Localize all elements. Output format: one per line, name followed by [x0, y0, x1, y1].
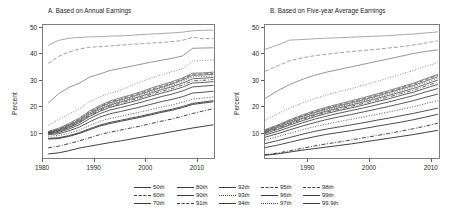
legend-item[interactable]: 94th — [219, 199, 265, 207]
legend-label: 97th — [280, 199, 291, 207]
panel-a: A. Based on Annual Earnings Percent 1020… — [0, 0, 224, 180]
legend-line-swatch — [261, 195, 278, 196]
panel-b-plot-area — [264, 24, 440, 159]
legend-label: 96th — [280, 191, 291, 199]
legend-label: 94th — [238, 199, 249, 207]
legend-item[interactable]: 99.9th — [303, 199, 349, 207]
y-axis-tick-label: 20 — [15, 103, 37, 110]
legend-line-swatch — [219, 187, 236, 188]
legend-label: 95th — [280, 183, 291, 191]
legend-column: 92th93th94th — [219, 183, 265, 207]
legend-item[interactable]: 98th — [303, 183, 349, 191]
figure-root: A. Based on Annual Earnings Percent 1020… — [0, 0, 449, 215]
y-axis-tick-label: 40 — [237, 50, 259, 57]
panel-b-curves — [265, 25, 441, 160]
legend-item[interactable]: 95th — [261, 183, 307, 191]
series-line — [48, 30, 213, 45]
legend-column: 95th96th97th — [261, 183, 307, 207]
legend-label: 98th — [322, 183, 333, 191]
legend-line-swatch — [177, 187, 194, 188]
x-axis-tick-mark — [42, 159, 43, 162]
legend-label: 50th — [153, 183, 164, 191]
y-axis-tick-mark — [39, 133, 42, 134]
legend-line-swatch — [219, 195, 236, 196]
legend-label: 90th — [196, 191, 207, 199]
series-line — [48, 97, 213, 136]
legend-item[interactable]: 90th — [177, 191, 223, 199]
legend-label: 92th — [238, 183, 249, 191]
x-axis-tick-label: 1990 — [79, 164, 109, 171]
legend-item[interactable]: 50th — [134, 183, 180, 191]
y-axis-tick-mark — [39, 27, 42, 28]
legend-item[interactable]: 91th — [177, 199, 223, 207]
series-line — [48, 82, 213, 134]
series-line — [265, 63, 438, 121]
legend-line-swatch — [177, 203, 194, 204]
legend-line-swatch — [303, 187, 320, 188]
x-axis-tick-mark — [369, 159, 370, 162]
legend-line-swatch — [177, 195, 194, 196]
series-line — [48, 102, 213, 139]
x-axis-tick-label: 2000 — [130, 164, 160, 171]
y-axis-tick-mark — [39, 53, 42, 54]
legend-item[interactable]: 70th — [134, 199, 180, 207]
legend-item[interactable]: 96th — [261, 191, 307, 199]
legend-label: 70th — [153, 199, 164, 207]
y-axis-tick-label: 30 — [15, 76, 37, 83]
legend-label: 91th — [196, 199, 207, 207]
legend-item[interactable]: 97th — [261, 199, 307, 207]
y-axis-tick-label: 10 — [15, 129, 37, 136]
legend-line-swatch — [261, 187, 278, 188]
y-axis-tick-label: 50 — [15, 23, 37, 30]
legend-item[interactable]: 80th — [177, 183, 223, 191]
legend-column: 50th60th70th — [134, 183, 180, 207]
y-axis-tick-mark — [261, 27, 264, 28]
legend-item[interactable]: 93th — [219, 191, 265, 199]
series-line — [265, 84, 438, 133]
legend-item[interactable]: 99th — [303, 191, 349, 199]
x-axis-tick-label: 1980 — [27, 164, 57, 171]
y-axis-tick-mark — [261, 133, 264, 134]
y-axis-tick-mark — [261, 80, 264, 81]
legend-line-swatch — [261, 203, 278, 204]
legend-label: 99.9th — [322, 199, 338, 207]
legend-label: 93th — [238, 191, 249, 199]
y-axis-tick-label: 30 — [237, 76, 259, 83]
panel-a-curves — [43, 25, 216, 160]
legend-line-swatch — [134, 203, 151, 204]
y-axis-tick-label: 50 — [237, 23, 259, 30]
legend-line-swatch — [219, 203, 236, 204]
y-axis-tick-mark — [39, 106, 42, 107]
panel-b: B. Based on Five-year Average Earnings P… — [223, 0, 449, 180]
x-axis-tick-label: 2010 — [182, 164, 212, 171]
x-axis-tick-mark — [197, 159, 198, 162]
x-axis-tick-mark — [307, 159, 308, 162]
legend-line-swatch — [303, 203, 320, 204]
legend-item[interactable]: 92th — [219, 183, 265, 191]
y-axis-tick-mark — [261, 106, 264, 107]
legend-label: 80th — [196, 183, 207, 191]
x-axis-tick-label: 2000 — [354, 164, 384, 171]
x-axis-tick-mark — [431, 159, 432, 162]
series-line — [48, 80, 213, 133]
legend-label: 60th — [153, 191, 164, 199]
legend-column: 80th90th91th — [177, 183, 223, 207]
panel-a-plot-area — [42, 24, 215, 159]
y-axis-tick-label: 10 — [237, 129, 259, 136]
legend-line-swatch — [303, 195, 320, 196]
series-line — [265, 108, 438, 143]
series-line — [265, 89, 438, 136]
series-line — [265, 32, 438, 49]
legend-line-swatch — [134, 195, 151, 196]
x-axis-tick-mark — [145, 159, 146, 162]
legend-label: 99th — [322, 191, 333, 199]
panel-b-title: B. Based on Five-year Average Earnings — [270, 7, 386, 14]
y-axis-tick-label: 40 — [15, 50, 37, 57]
legend-line-swatch — [134, 187, 151, 188]
series-line — [265, 130, 438, 155]
series-line — [265, 123, 438, 155]
y-axis-tick-mark — [39, 80, 42, 81]
legend-column: 98th99th99.9th — [303, 183, 349, 207]
legend-item[interactable]: 60th — [134, 191, 180, 199]
x-axis-tick-label: 1990 — [292, 164, 322, 171]
